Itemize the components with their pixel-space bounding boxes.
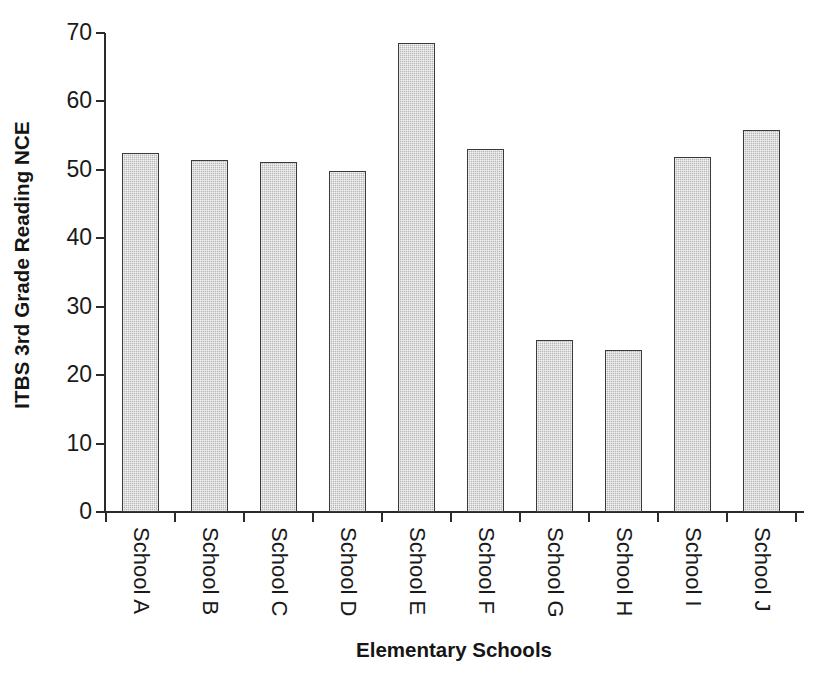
x-axis-category-label: School E [404, 527, 430, 627]
bar [191, 160, 228, 512]
y-axis-tick-label: 60 [32, 89, 92, 112]
x-axis-category-label: School C [266, 527, 292, 627]
y-axis-tick [96, 511, 105, 513]
x-axis-category-label-text: School C [268, 527, 290, 616]
x-axis-category-label-text: School E [406, 527, 428, 615]
bar [329, 171, 366, 512]
bar [605, 350, 642, 512]
x-axis-category-label: School I [680, 527, 706, 627]
x-axis-category-label-text: School B [199, 527, 221, 615]
x-axis-tick [795, 512, 797, 522]
x-axis-tick [312, 512, 314, 522]
y-axis-tick [96, 169, 105, 171]
y-axis-tick-label: 20 [32, 363, 92, 386]
x-axis-category-label-text: School G [544, 527, 566, 618]
x-axis-category-label: School B [197, 527, 223, 627]
x-axis-category-label: School J [749, 527, 775, 627]
x-axis-tick [588, 512, 590, 522]
bar [260, 162, 297, 512]
x-axis-tick [381, 512, 383, 522]
y-axis-tick [96, 374, 105, 376]
x-axis-category-label: School D [335, 527, 361, 627]
x-axis-category-label: School G [542, 527, 568, 627]
bar-chart: ITBS 3rd Grade Reading NCE 0102030405060… [0, 0, 816, 680]
bar [398, 43, 435, 512]
y-axis-title-text: ITBS 3rd Grade Reading NCE [10, 121, 34, 408]
x-axis-tick [174, 512, 176, 522]
y-axis-tick-label: 40 [32, 226, 92, 249]
y-axis-tick-label: 50 [32, 158, 92, 181]
y-axis-tick [96, 100, 105, 102]
x-axis-category-label-text: School F [475, 527, 497, 614]
x-axis-tick [657, 512, 659, 522]
x-axis-category-label-text: School H [613, 527, 635, 616]
y-axis-tick [96, 443, 105, 445]
bar [122, 153, 159, 512]
x-axis-category-label-text: School I [682, 527, 704, 607]
bar [536, 340, 573, 512]
x-axis-category-label-text: School A [130, 527, 152, 614]
x-axis-tick [450, 512, 452, 522]
x-axis-category-label-text: School J [751, 527, 773, 611]
x-axis-tick [726, 512, 728, 522]
bar [674, 157, 711, 512]
y-axis-tick [96, 237, 105, 239]
x-axis-category-label-text: School D [337, 527, 359, 616]
x-axis-category-label: School F [473, 527, 499, 627]
y-axis-tick [96, 306, 105, 308]
bar [467, 149, 504, 512]
y-axis-tick-label: 70 [32, 21, 92, 44]
y-axis-tick-label: 10 [32, 432, 92, 455]
y-axis-line [104, 33, 106, 513]
y-axis-tick [96, 32, 105, 34]
y-axis-tick-label: 30 [32, 295, 92, 318]
x-axis-tick [519, 512, 521, 522]
x-axis-tick [105, 512, 107, 522]
y-axis-tick-label: 0 [32, 500, 92, 523]
bar [743, 130, 780, 512]
x-axis-category-label: School H [611, 527, 637, 627]
x-axis-title: Elementary Schools [104, 638, 804, 662]
x-axis-category-label: School A [128, 527, 154, 627]
x-axis-tick [243, 512, 245, 522]
